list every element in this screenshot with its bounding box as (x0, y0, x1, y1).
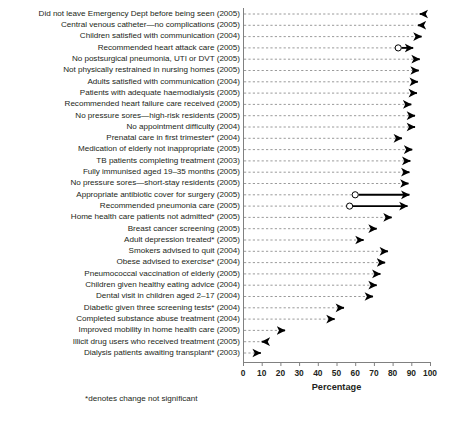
category-label: Adult depression treated* (2005) (2, 235, 240, 244)
category-label: Obese advised to exercise* (2004) (2, 257, 240, 266)
category-label: Appropriate antibiotic cover for surgery… (2, 190, 240, 199)
start-value-circle (395, 45, 401, 51)
category-label: Dialysis patients awaiting transplant* (… (2, 348, 240, 357)
x-axis-tick-label: 30 (294, 368, 303, 378)
category-label: Diabetic given three screening tests* (2… (2, 303, 240, 312)
plot-svg (243, 0, 456, 421)
category-label: Adults satisfied with communication (200… (2, 77, 240, 86)
category-label: Recommended pneumonia care (2005) (2, 201, 240, 210)
category-label-column: Did not leave Emergency Dept before bein… (0, 0, 240, 360)
start-value-circle (346, 203, 352, 209)
category-label: No pressure sores—short-stay residents (… (2, 178, 240, 187)
x-axis-tick-label: 100 (423, 368, 437, 378)
x-axis-tick-label: 70 (369, 368, 378, 378)
category-label: Home health care patients not admitted* … (2, 212, 240, 221)
category-label: No postsurgical pneumonia, UTI or DVT (2… (2, 54, 240, 63)
arrow-change-chart: Did not leave Emergency Dept before bein… (0, 0, 456, 421)
category-label: Completed substance abuse treatment (200… (2, 314, 240, 323)
x-axis-tick-label: 20 (276, 368, 285, 378)
x-axis-tick-label: 0 (241, 368, 246, 378)
x-axis-tick-label: 50 (332, 368, 341, 378)
category-label: Improved mobility in home health care (2… (2, 325, 240, 334)
category-label: Pneumococcal vaccination of elderly (200… (2, 269, 240, 278)
category-label: Did not leave Emergency Dept before bein… (2, 9, 240, 18)
x-axis-tick-label: 40 (313, 368, 322, 378)
category-label: Dental visit in children aged 2–17 (2004… (2, 291, 240, 300)
category-label: Children given healthy eating advice (20… (2, 280, 240, 289)
category-label: Fully immunised aged 19–35 months (2005) (2, 167, 240, 176)
category-label: Recommended heart failure care received … (2, 99, 240, 108)
category-label: Not physically restrained in nursing hom… (2, 65, 240, 74)
data-marker (346, 203, 407, 209)
category-label: Breast cancer screening (2005) (2, 224, 240, 233)
category-label: No appointment difficulty (2004) (2, 122, 240, 131)
category-label: Central venous catheter—no complications… (2, 20, 240, 29)
plot-area (243, 0, 456, 421)
start-value-circle (352, 192, 358, 198)
category-label: Patients with adequate haemodialysis (20… (2, 88, 240, 97)
x-axis-tick-label: 90 (407, 368, 416, 378)
x-axis-tick-label: 80 (388, 368, 397, 378)
x-axis-tick-label: 60 (351, 368, 360, 378)
category-label: TB patients completing treatment (2003) (2, 156, 240, 165)
category-label: Children satisfied with communication (2… (2, 31, 240, 40)
category-label: Recommended heart attack care (2005) (2, 43, 240, 52)
x-axis-title: Percentage (243, 382, 430, 392)
category-label: Prenatal care in first trimester* (2004) (2, 133, 240, 142)
category-label: No pressure sores—high-risk residents (2… (2, 111, 240, 120)
category-label: Smokers advised to quit (2004) (2, 246, 240, 255)
category-label: Medication of elderly not inappropriate … (2, 144, 240, 153)
category-label: Illicit drug users who received treatmen… (2, 337, 240, 346)
footnote-significance: *denotes change not significant (85, 394, 198, 403)
data-marker (352, 192, 409, 198)
data-marker (395, 45, 413, 51)
x-axis-tick-label: 10 (257, 368, 266, 378)
